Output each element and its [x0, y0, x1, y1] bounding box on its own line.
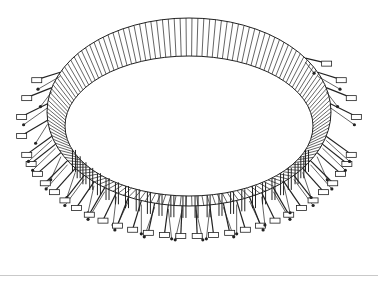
ring-structure-drawing — [0, 0, 378, 283]
bottom-divider — [0, 275, 378, 276]
